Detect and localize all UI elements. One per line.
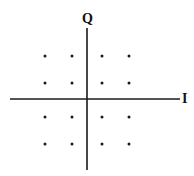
constellation-point (101, 55, 104, 58)
q-axis-label: Q (82, 12, 93, 26)
constellation-point (128, 116, 131, 119)
constellation-point (128, 55, 131, 58)
constellation-point (71, 116, 74, 119)
constellation-point (128, 143, 131, 146)
constellation-point (71, 82, 74, 85)
constellation-point (101, 143, 104, 146)
i-axis-label: I (182, 92, 187, 106)
constellation-point (101, 116, 104, 119)
constellation-point (44, 55, 47, 58)
constellation-diagram: Q I (0, 0, 194, 176)
constellation-point (44, 82, 47, 85)
constellation-point (71, 143, 74, 146)
constellation-point (44, 143, 47, 146)
constellation-plot (0, 0, 194, 176)
constellation-point (71, 55, 74, 58)
constellation-point (101, 82, 104, 85)
constellation-point (128, 82, 131, 85)
constellation-point (44, 116, 47, 119)
